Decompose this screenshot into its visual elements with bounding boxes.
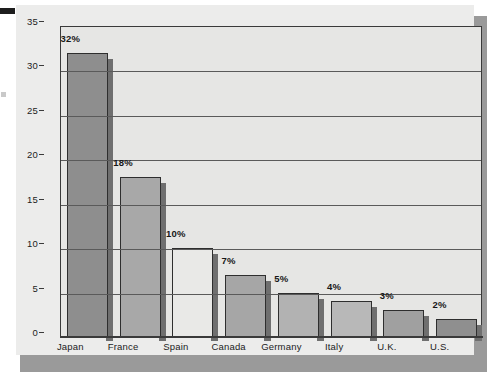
y-axis-tick-mark [39, 199, 44, 200]
x-axis-tick-label: U.S. [400, 341, 480, 352]
bar-rect[interactable] [436, 319, 477, 337]
x-axis-line [60, 336, 483, 338]
plot-area [60, 26, 482, 337]
bar-italy[interactable] [331, 301, 372, 337]
gridline [61, 71, 481, 72]
bar-value-label: 32% [40, 33, 100, 44]
bar-france[interactable] [120, 177, 161, 337]
bar-germany[interactable] [278, 293, 319, 337]
y-axis-tick-label: 15 [0, 193, 38, 204]
gridline [61, 205, 481, 206]
bar-value-label: 4% [304, 281, 364, 292]
bar-value-label: 5% [251, 273, 311, 284]
y-axis-tick-mark [39, 243, 44, 244]
bar-value-label: 7% [199, 255, 259, 266]
bar-rect[interactable] [225, 275, 266, 337]
y-axis-tick-label: 25 [0, 104, 38, 115]
bar-value-label: 2% [410, 299, 470, 310]
y-axis-tick-mark [39, 288, 44, 289]
y-axis-tick-mark [39, 110, 44, 111]
y-axis-tick-mark [39, 21, 44, 22]
y-axis-tick-label: 10 [0, 238, 38, 249]
bar-series [61, 27, 481, 337]
bar-uk[interactable] [383, 310, 424, 337]
scan-artifact-dash-icon [0, 8, 15, 14]
bar-us[interactable] [436, 319, 477, 337]
y-axis-tick-mark [39, 332, 44, 333]
y-axis-tick-label: 30 [0, 60, 38, 71]
bar-value-label: 18% [93, 157, 153, 168]
y-axis-tick-label: 20 [0, 149, 38, 160]
bar-rect[interactable] [120, 177, 161, 337]
y-axis-tick-mark [39, 154, 44, 155]
bar-rect[interactable] [278, 293, 319, 337]
y-axis-tick-mark [39, 65, 44, 66]
bar-value-label: 3% [357, 290, 417, 301]
bar-canada[interactable] [225, 275, 266, 337]
gridline [61, 294, 481, 295]
bar-rect[interactable] [383, 310, 424, 337]
bar-value-label: 10% [146, 228, 206, 239]
chart-panel: 05101520253035 JapanFranceSpainCanadaGer… [16, 5, 474, 355]
scan-artifact-speck-icon [1, 92, 6, 97]
y-axis-tick-label: 5 [0, 282, 38, 293]
gridline [61, 116, 481, 117]
bar-rect[interactable] [331, 301, 372, 337]
gridline [61, 249, 481, 250]
y-axis-tick-label: 0 [0, 327, 38, 338]
chart-page: 05101520253035 JapanFranceSpainCanadaGer… [0, 0, 503, 387]
y-axis-tick-label: 35 [0, 16, 38, 27]
